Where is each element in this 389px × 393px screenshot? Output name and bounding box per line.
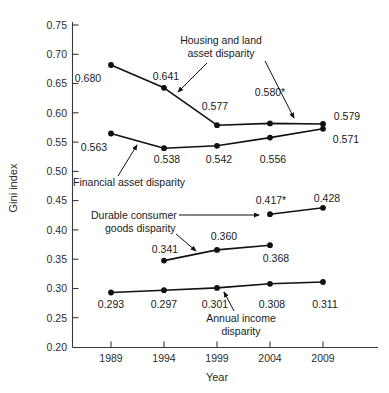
data-label-financial-2004: 0.556: [260, 153, 286, 165]
annotation-financial-line1: Financial asset disparity: [73, 176, 186, 188]
data-point-durable-upper-2004: [267, 211, 273, 217]
y-tick-label-7: 0.40: [47, 224, 68, 236]
y-tick-label-0: 0.75: [47, 19, 68, 31]
data-label-housing-1994: 0.641: [153, 70, 179, 82]
y-tick-label-9: 0.30: [47, 282, 68, 294]
y-tick-label-4: 0.55: [47, 136, 68, 148]
annotation-housing-and-land: Housing and land asset disparity: [178, 34, 294, 118]
annotation-income-line2: disparity: [221, 325, 261, 337]
data-label-financial-2009: 0.571: [333, 133, 359, 145]
data-point-income-1994: [161, 287, 167, 293]
x-tick-label-1999: 1999: [205, 352, 229, 364]
annotation-income-line1: Annual income: [206, 312, 276, 324]
y-tick-label-3: 0.60: [47, 107, 68, 119]
y-tick-label-10: 0.25: [47, 312, 68, 324]
y-axis-title: Gini index: [7, 163, 19, 212]
data-label-housing-1999: 0.577: [202, 100, 228, 112]
y-tick-label-1: 0.70: [47, 48, 68, 60]
data-label-housing-1989: 0.680: [75, 72, 101, 84]
series-durable-consumer-goods-disparity: 0.341 0.360 0.368 0.417* 0.428: [152, 192, 340, 264]
annotation-durable-arrow-diagonal: [176, 234, 196, 251]
x-tick-label-1989: 1989: [99, 352, 123, 364]
data-point-housing-1999: [214, 122, 220, 128]
data-label-financial-1994: 0.538: [154, 153, 180, 165]
data-label-income-1994: 0.297: [151, 298, 177, 310]
data-label-housing-2009: 0.579: [334, 110, 360, 122]
data-point-durable-1999: [214, 247, 220, 253]
x-tick-label-2009: 2009: [311, 352, 335, 364]
series-housing-and-land-asset-disparity: 0.680 0.641 0.577 0.580* 0.579: [75, 62, 360, 128]
data-label-financial-1999: 0.542: [206, 153, 232, 165]
annotation-housing-line1: Housing and land: [180, 34, 262, 46]
data-point-income-2004: [267, 281, 273, 287]
data-label-durable-2004: 0.368: [263, 252, 289, 264]
annotation-financial-arrow: [118, 145, 137, 176]
data-label-income-2009: 0.311: [312, 298, 338, 310]
data-point-durable-upper-2009: [320, 205, 326, 211]
series-financial-asset-disparity: 0.563 0.538 0.542 0.556 0.571: [81, 126, 359, 165]
data-point-housing-1989: [108, 62, 114, 68]
data-point-financial-2009: [320, 126, 326, 132]
data-label-durable-value-2009: 0.428: [314, 192, 340, 204]
series-line-housing: [111, 65, 323, 125]
gini-index-line-chart: 0.75 0.70 0.65 0.60 0.55 0.50 0.45 0.40 …: [0, 0, 389, 393]
data-point-housing-2004: [267, 121, 273, 127]
data-point-financial-1999: [214, 143, 220, 149]
data-point-income-1989: [108, 290, 114, 296]
data-point-financial-2004: [267, 135, 273, 141]
annotation-housing-arrow-left: [178, 63, 207, 92]
x-axis-title: Year: [206, 371, 229, 383]
y-tick-label-11: 0.20: [47, 341, 68, 353]
data-label-durable-1999: 0.360: [211, 230, 237, 242]
x-tick-label-1994: 1994: [152, 352, 176, 364]
x-tick-label-2004: 2004: [258, 352, 282, 364]
data-label-financial-1989: 0.563: [81, 141, 107, 153]
y-tick-label-8: 0.35: [47, 253, 68, 265]
series-line-durable-upper: [270, 208, 323, 214]
annotation-durable-line1: Durable consumer: [91, 209, 177, 221]
data-label-income-2004: 0.308: [259, 298, 285, 310]
data-point-financial-1994: [161, 145, 167, 151]
y-tick-label-2: 0.65: [47, 77, 68, 89]
annotation-housing-line2: asset disparity: [187, 47, 255, 59]
data-point-durable-1994: [161, 258, 167, 264]
data-label-income-1999: 0.301: [202, 298, 228, 310]
data-label-income-1989: 0.293: [98, 298, 124, 310]
data-point-income-1999: [214, 285, 220, 291]
data-point-financial-1989: [108, 131, 114, 137]
series-annual-income-disparity: 0.293 0.297 0.301 0.308 0.311: [98, 279, 338, 310]
chart-svg: 0.75 0.70 0.65 0.60 0.55 0.50 0.45 0.40 …: [0, 0, 389, 393]
y-tick-label-5: 0.50: [47, 165, 68, 177]
data-point-income-2009: [320, 279, 326, 285]
data-label-durable-2009: 0.417*: [256, 194, 286, 206]
annotation-durable-line2: goods disparity: [105, 222, 176, 234]
data-label-durable-1994: 0.341: [152, 243, 178, 255]
y-tick-label-6: 0.45: [47, 194, 68, 206]
data-point-durable-2004: [267, 242, 273, 248]
data-point-housing-1994: [161, 85, 167, 91]
